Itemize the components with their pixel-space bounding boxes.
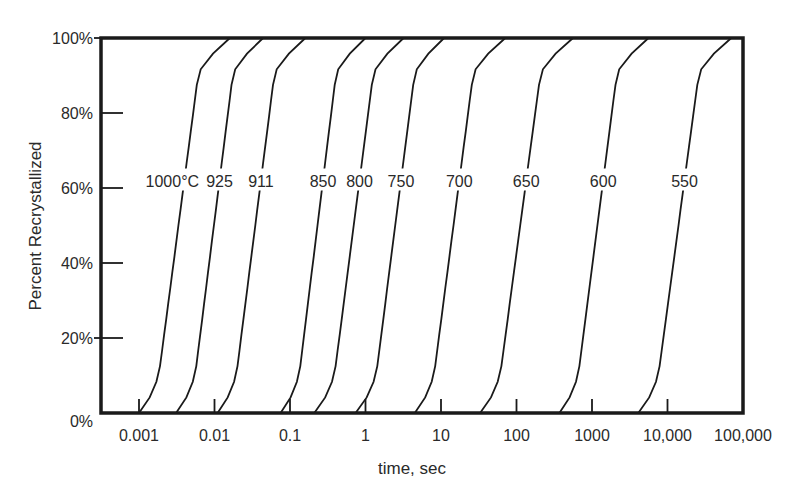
- y-tick-label: 100%: [52, 30, 93, 47]
- curve-label: 800: [346, 173, 373, 190]
- curve-600: [559, 38, 648, 413]
- curve-label: 750: [388, 173, 415, 190]
- curve-650: [480, 38, 573, 413]
- curve-850: [281, 38, 366, 413]
- x-tick-label: 1: [361, 427, 370, 444]
- x-tick-label: 10,000: [643, 427, 692, 444]
- curve-700: [415, 38, 506, 413]
- curve-label: 550: [671, 173, 698, 190]
- curve-label: 911: [248, 173, 274, 190]
- y-tick-labels: 0%20%40%60%80%100%: [52, 30, 93, 430]
- curve-label: 850: [310, 173, 337, 190]
- recrystallization-chart: 0%20%40%60%80%100% 0.0010.010.1110100100…: [0, 0, 807, 498]
- x-tick-label: 1000: [574, 427, 610, 444]
- curve-label: 650: [513, 173, 540, 190]
- curve-label: 700: [446, 173, 473, 190]
- x-axis-title: time, sec: [378, 459, 447, 478]
- x-tick-label: 100,000: [714, 427, 772, 444]
- curve-800: [314, 38, 403, 413]
- curve-label: 925: [206, 173, 233, 190]
- x-tick-label: 100: [503, 427, 530, 444]
- curve-550: [638, 38, 731, 413]
- x-tick-label: 0.01: [199, 427, 230, 444]
- y-tick-label: 60%: [61, 180, 93, 197]
- curve-label: 1000°C: [146, 173, 200, 190]
- curve-labels: 1000°C925911850800750700650600550: [142, 169, 701, 191]
- x-tick-label: 10: [432, 427, 450, 444]
- x-tick-labels: 0.0010.010.1110100100010,000100,000: [119, 427, 772, 444]
- y-tick-label: 80%: [61, 105, 93, 122]
- y-axis-title: Percent Recrystallized: [26, 141, 45, 310]
- x-tick-label: 0.1: [279, 427, 301, 444]
- curve-925: [176, 38, 263, 413]
- y-tick-label: 40%: [61, 255, 93, 272]
- curve-1000: [139, 38, 230, 413]
- x-tick-label: 0.001: [119, 427, 159, 444]
- curve-750: [356, 38, 445, 413]
- y-tick-label: 20%: [61, 330, 93, 347]
- curve-label: 600: [590, 173, 617, 190]
- curves: [139, 38, 731, 413]
- y-tick-label: 0%: [70, 413, 93, 430]
